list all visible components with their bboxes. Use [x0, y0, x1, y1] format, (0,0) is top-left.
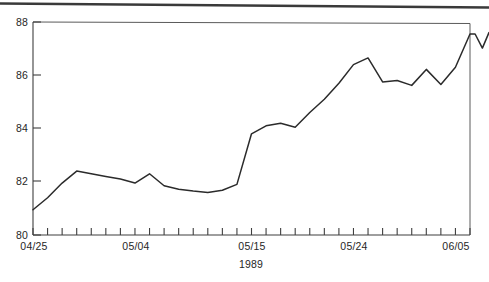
y-tick-label-86: 86 [4, 69, 28, 81]
data-series-line [33, 33, 489, 210]
x-tick-label-0524: 05/24 [331, 240, 377, 252]
x-tick-label-0605: 06/05 [433, 240, 479, 252]
x-tick-label-0425: 04/25 [11, 240, 57, 252]
chart-screenshot: 88 86 84 82 80 04/25 05/04 05/15 05/24 0… [0, 0, 489, 282]
y-tick-label-84: 84 [4, 122, 28, 134]
x-axis-ticks [33, 228, 470, 235]
x-axis-title: 1989 [211, 258, 291, 270]
x-tick-label-0515: 05/15 [229, 240, 275, 252]
y-tick-label-88: 88 [4, 16, 28, 28]
y-tick-label-82: 82 [4, 175, 28, 187]
x-tick-label-0504: 05/04 [113, 240, 159, 252]
y-axis-ticks [33, 22, 41, 235]
axis-spine-top [33, 22, 470, 24]
plot-frame [33, 22, 470, 235]
